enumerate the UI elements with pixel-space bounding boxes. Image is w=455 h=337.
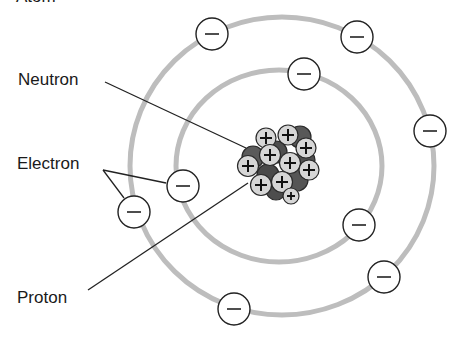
proton	[296, 138, 316, 158]
electron	[167, 170, 199, 202]
proton	[283, 188, 299, 204]
electron-leader-line-1	[103, 170, 166, 183]
electron	[118, 196, 150, 228]
electron	[368, 261, 400, 293]
electron	[196, 18, 228, 50]
nucleus	[238, 125, 320, 204]
proton	[280, 153, 301, 174]
electron	[414, 115, 446, 147]
title-fragment: Atom	[16, 0, 56, 5]
electron	[218, 293, 250, 325]
proton	[251, 175, 272, 196]
proton	[238, 156, 259, 177]
proton-label: Proton	[17, 289, 67, 306]
proton	[260, 145, 281, 166]
electron	[288, 58, 320, 90]
electron	[341, 21, 373, 53]
proton-leader-line	[88, 183, 248, 290]
neutron-leader-line	[105, 82, 246, 148]
electron-label: Electron	[17, 155, 79, 172]
proton	[299, 160, 319, 180]
neutron-label: Neutron	[18, 71, 78, 88]
proton	[278, 125, 298, 145]
electron	[343, 209, 375, 241]
